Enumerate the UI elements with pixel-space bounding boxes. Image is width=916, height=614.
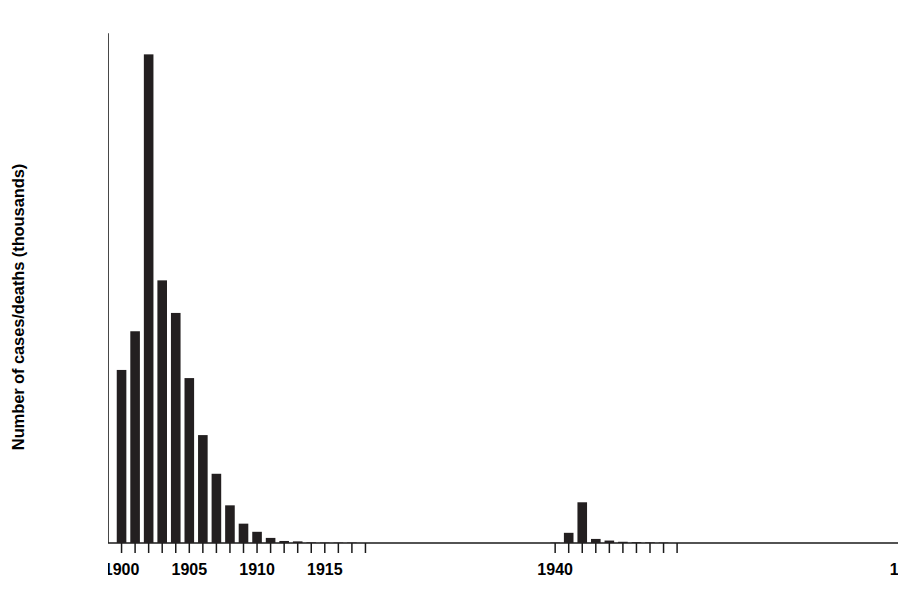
- x-tick-label: 1915: [307, 561, 343, 578]
- bar: [239, 524, 249, 543]
- bar: [185, 378, 195, 543]
- bar: [591, 539, 601, 543]
- bar: [252, 532, 262, 543]
- bar: [130, 331, 140, 543]
- bar: [266, 538, 276, 543]
- bar: [618, 542, 628, 543]
- x-tick-label: 1910: [239, 561, 275, 578]
- bars-series: [117, 54, 898, 543]
- x-axis-tick-labels: 1900190519101915194019761980198519891992: [108, 561, 898, 578]
- bar: [632, 542, 642, 543]
- bar: [117, 370, 127, 543]
- x-tick-label: 1905: [172, 561, 208, 578]
- chart-figure: Number of cases/deaths (thousands) 05101…: [0, 0, 916, 614]
- x-axis: [108, 543, 898, 553]
- bar: [198, 435, 208, 543]
- bar-chart-svg: 0510152025 19001905191019151940197619801…: [108, 28, 898, 588]
- bar: [645, 542, 655, 543]
- bar: [564, 533, 574, 543]
- bar: [306, 542, 316, 543]
- bar: [144, 54, 154, 543]
- bar: [157, 280, 167, 543]
- x-tick-label: 1940: [537, 561, 573, 578]
- y-axis-title: Number of cases/deaths (thousands): [0, 0, 36, 614]
- bar: [171, 313, 181, 543]
- bar: [605, 541, 615, 543]
- x-tick-label: 1900: [108, 561, 139, 578]
- bar: [577, 502, 587, 543]
- bar: [279, 541, 289, 543]
- bar: [212, 474, 222, 543]
- bar: [225, 505, 235, 543]
- plot-area: 0510152025 19001905191019151940197619801…: [108, 28, 898, 588]
- bar: [293, 541, 303, 543]
- x-tick-label: 1976: [890, 561, 898, 578]
